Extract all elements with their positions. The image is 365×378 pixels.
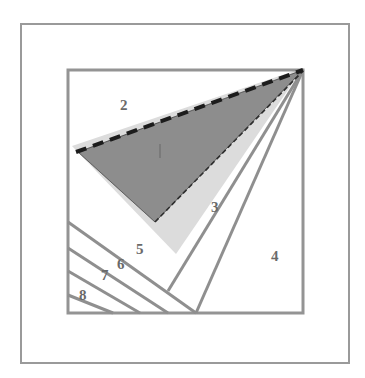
geometry-diagram-svg: 2 3 4 5 6 7 8 xyxy=(0,0,365,378)
figure-root: 2 3 4 5 6 7 8 xyxy=(0,0,365,378)
